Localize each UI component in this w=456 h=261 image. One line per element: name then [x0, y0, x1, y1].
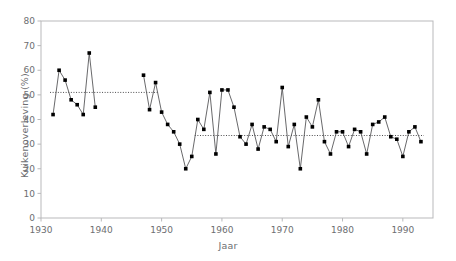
data-point-marker [63, 78, 67, 82]
data-point-marker [178, 142, 182, 146]
y-axis-tick-label: 0 [29, 213, 35, 223]
data-point-marker [407, 130, 411, 134]
data-point-marker [419, 140, 423, 144]
data-point-marker [323, 140, 327, 144]
data-point-marker [69, 98, 73, 102]
data-point-marker [238, 135, 242, 139]
chart-plot: 0102030405060708019301940195019601970198… [0, 0, 456, 261]
data-point-marker [359, 130, 363, 134]
x-axis-tick-label: 1970 [271, 225, 294, 235]
data-point-marker [154, 81, 158, 85]
data-point-marker [196, 118, 200, 122]
data-point-marker [389, 135, 393, 139]
x-axis-title: Jaar [0, 240, 456, 251]
data-point-marker [377, 120, 381, 124]
data-point-marker [51, 113, 55, 117]
data-point-marker [184, 167, 188, 171]
data-point-marker [371, 123, 375, 127]
data-point-marker [148, 108, 152, 112]
y-axis-title: Kuikenoverleving (%) [19, 56, 30, 196]
data-point-marker [81, 113, 85, 117]
plot-frame [41, 21, 433, 218]
data-point-marker [341, 130, 345, 134]
data-point-marker [335, 130, 339, 134]
chart-container: 0102030405060708019301940195019601970198… [0, 0, 456, 261]
x-axis-tick-label: 1960 [210, 225, 233, 235]
x-axis-tick-label: 1930 [30, 225, 53, 235]
data-point-marker [220, 88, 224, 92]
data-point-marker [226, 88, 230, 92]
data-point-marker [208, 91, 212, 95]
data-point-marker [365, 152, 369, 156]
data-point-marker [232, 105, 236, 109]
data-point-marker [401, 155, 405, 159]
data-point-marker [347, 145, 351, 149]
x-axis-tick-label: 1990 [391, 225, 414, 235]
data-point-marker [383, 115, 387, 119]
data-point-marker [87, 51, 91, 55]
data-point-marker [214, 152, 218, 156]
y-axis-tick-label: 80 [24, 16, 36, 26]
data-point-marker [299, 167, 303, 171]
data-point-marker [274, 140, 278, 144]
x-axis-tick-label: 1950 [150, 225, 173, 235]
data-point-marker [286, 145, 290, 149]
data-point-marker [57, 68, 61, 72]
data-line [53, 53, 95, 115]
data-point-marker [329, 152, 333, 156]
data-point-marker [292, 123, 296, 127]
data-point-marker [160, 110, 164, 114]
data-point-marker [250, 123, 254, 127]
data-point-marker [280, 86, 284, 90]
data-point-marker [75, 103, 79, 107]
data-point-marker [317, 98, 321, 102]
data-point-marker [268, 128, 272, 132]
data-point-marker [244, 142, 248, 146]
data-point-marker [190, 155, 194, 159]
x-axis-tick-label: 1980 [331, 225, 354, 235]
data-point-marker [353, 128, 357, 132]
data-point-marker [172, 130, 176, 134]
data-point-marker [202, 128, 206, 132]
data-point-marker [256, 147, 260, 151]
data-point-marker [166, 123, 170, 127]
data-point-marker [395, 137, 399, 141]
data-point-marker [305, 115, 309, 119]
data-point-marker [413, 125, 417, 129]
data-point-marker [311, 125, 315, 129]
y-axis-tick-label: 70 [24, 41, 36, 51]
data-point-marker [262, 125, 266, 129]
x-axis-tick-label: 1940 [90, 225, 113, 235]
data-point-marker [93, 105, 97, 109]
data-point-marker [142, 73, 146, 77]
